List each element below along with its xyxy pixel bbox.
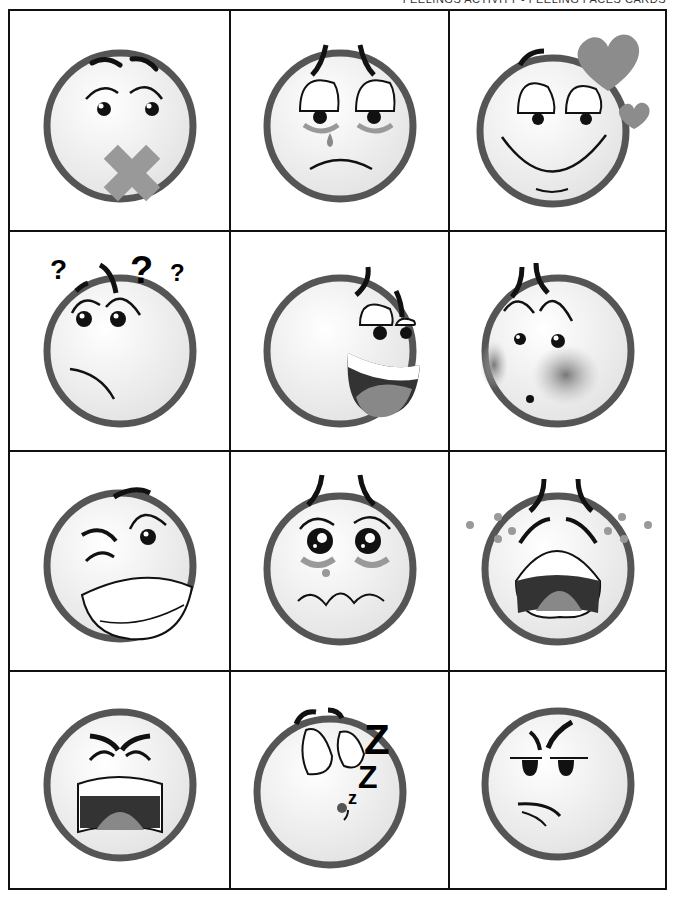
blushing-face-icon [458, 241, 658, 441]
card-worried[interactable]: Worried [231, 452, 450, 672]
card-confused[interactable]: Confused ? ? ? [10, 232, 231, 452]
yelling-face-icon [20, 680, 220, 880]
card-sleepy[interactable]: Sleepy Z Z z [231, 672, 450, 888]
page-header: FEELINGS ACTIVITY - FEELING FACES CARDS [403, 0, 666, 5]
tape-over-mouth-face-icon [20, 21, 220, 221]
crying-tear-face-icon [240, 21, 440, 221]
card-silly[interactable]: Silly [10, 452, 231, 672]
card-embarrassed[interactable]: Embarrassed [450, 232, 665, 452]
teary-eyes-face-icon [240, 461, 440, 661]
laughing-face-icon [240, 241, 440, 441]
winking-face-icon [20, 461, 220, 661]
feeling-cards-grid: Speechless Sad [8, 9, 667, 890]
question-marks-face-icon: ? ? ? [20, 241, 220, 441]
question-mark: ? [170, 259, 185, 286]
card-crying[interactable]: Crying [450, 452, 665, 672]
question-mark: ? [50, 254, 67, 285]
sobbing-face-icon [458, 461, 658, 661]
sleep-z-big: Z [364, 716, 390, 763]
card-angry[interactable]: Angry [10, 672, 231, 888]
suspicious-face-icon [458, 680, 658, 880]
sleep-z-small: z [348, 788, 357, 808]
card-sad[interactable]: Sad [231, 11, 450, 232]
hearts-face-icon [458, 21, 658, 221]
card-in-love[interactable]: In Love [450, 11, 665, 232]
card-happy[interactable]: Happy [231, 232, 450, 452]
sleep-z-mid: Z [358, 759, 378, 795]
question-mark: ? [130, 249, 153, 291]
card-annoyed[interactable]: Annoyed [450, 672, 665, 888]
sleeping-zzz-face-icon: Z Z z [240, 680, 440, 880]
card-speechless[interactable]: Speechless [10, 11, 231, 232]
